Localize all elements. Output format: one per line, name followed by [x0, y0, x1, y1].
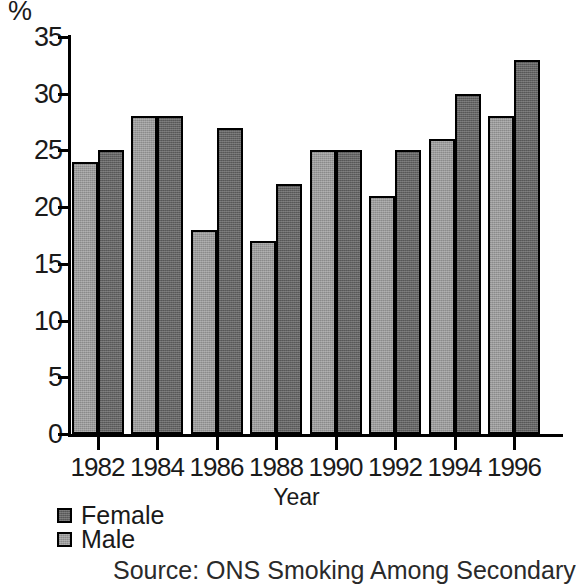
x-axis-tick-label: 1982: [71, 452, 125, 483]
x-axis-tick-label: 1992: [368, 452, 422, 483]
y-axis-tick-label: 0: [8, 419, 62, 450]
y-axis-tick-label: 10: [8, 305, 62, 336]
bar-male-1990[interactable]: [310, 150, 336, 434]
x-axis-tick-labels: 19821984198619881990199219941996: [0, 452, 567, 486]
bar-male-1984[interactable]: [131, 116, 157, 434]
chart-legend: Female Male: [57, 503, 164, 551]
bar-female-1982[interactable]: [98, 150, 124, 434]
x-axis-tick-mark: [97, 437, 100, 450]
bar-female-1988[interactable]: [276, 184, 302, 434]
bar-male-1988[interactable]: [250, 241, 276, 434]
legend-label-male: Male: [81, 527, 135, 551]
bar-female-1996[interactable]: [514, 60, 540, 434]
y-axis-tick-mark: [58, 263, 68, 266]
x-axis-tick-label: 1996: [487, 452, 541, 483]
x-axis-tick-label: 1984: [130, 452, 184, 483]
y-axis-tick-mark: [58, 376, 68, 379]
x-axis-tick-mark: [513, 437, 516, 450]
y-axis-tick-mark: [58, 36, 68, 39]
legend-label-female: Female: [81, 503, 164, 527]
bar-male-1982[interactable]: [72, 162, 98, 434]
y-axis-tick-label: 20: [8, 192, 62, 223]
bar-female-1990[interactable]: [336, 150, 362, 434]
x-axis-title-text: Year: [273, 484, 319, 510]
bar-female-1994[interactable]: [455, 94, 481, 434]
y-axis-tick-mark: [58, 149, 68, 152]
bar-male-1992[interactable]: [369, 196, 395, 434]
y-axis-tick-mark: [58, 93, 68, 96]
source-note: Source: ONS Smoking Among Secondary: [113, 556, 576, 585]
y-axis-tick-label: 15: [8, 248, 62, 279]
y-axis-tick-label: 5: [8, 362, 62, 393]
legend-item-male[interactable]: Male: [57, 527, 164, 551]
legend-swatch-male-icon: [57, 532, 72, 547]
bar-male-1986[interactable]: [191, 230, 217, 434]
y-axis-tick-mark: [58, 206, 68, 209]
x-axis-line: [68, 434, 563, 437]
y-axis-tick-label: 35: [8, 22, 62, 53]
x-axis-tick-label: 1988: [249, 452, 303, 483]
legend-swatch-female-icon: [57, 508, 72, 523]
x-axis-tick-mark: [156, 437, 159, 450]
x-axis-tick-mark: [335, 437, 338, 450]
bar-series-area: [68, 37, 563, 434]
bar-male-1994[interactable]: [429, 139, 455, 434]
x-axis-tick-mark: [394, 437, 397, 450]
legend-item-female[interactable]: Female: [57, 503, 164, 527]
bar-female-1986[interactable]: [217, 128, 243, 434]
bar-male-1996[interactable]: [488, 116, 514, 434]
x-axis-tick-label: 1986: [190, 452, 244, 483]
x-axis-tick-mark: [454, 437, 457, 450]
y-axis-tick-mark: [58, 320, 68, 323]
y-axis-tick-label: 25: [8, 135, 62, 166]
y-axis-tick-mark: [58, 433, 68, 436]
y-axis-tick-label: 30: [8, 78, 62, 109]
x-axis-tick-mark: [216, 437, 219, 450]
bar-female-1984[interactable]: [157, 116, 183, 434]
x-axis-tick-mark: [275, 437, 278, 450]
x-axis-tick-label: 1990: [309, 452, 363, 483]
x-axis-tick-label: 1994: [428, 452, 482, 483]
bar-female-1992[interactable]: [395, 150, 421, 434]
